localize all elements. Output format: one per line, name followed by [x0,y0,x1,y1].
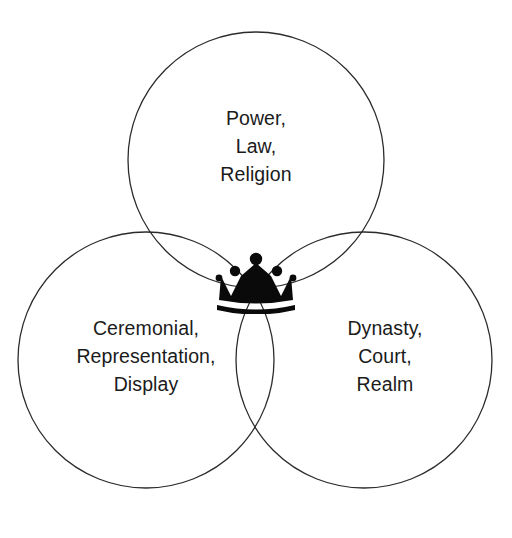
venn-label-top: Power, Law, Religion [146,104,366,188]
venn-label-bottom-right: Dynasty, Court, Realm [290,314,480,398]
venn-label-bottom-left-line-1: Ceremonial, [18,314,274,342]
crown-icon [213,252,299,314]
venn-label-top-line-3: Religion [146,160,366,188]
venn-label-top-line-2: Law, [146,132,366,160]
venn-label-bottom-left-line-3: Display [18,370,274,398]
venn-label-top-line-1: Power, [146,104,366,132]
venn-label-bottom-right-line-1: Dynasty, [290,314,480,342]
venn-label-bottom-right-line-2: Court, [290,342,480,370]
venn-label-bottom-right-line-3: Realm [290,370,480,398]
venn-diagram: Power, Law, Religion Ceremonial, Represe… [0,0,512,538]
venn-label-bottom-left-line-2: Representation, [18,342,274,370]
venn-label-bottom-left: Ceremonial, Representation, Display [18,314,274,398]
